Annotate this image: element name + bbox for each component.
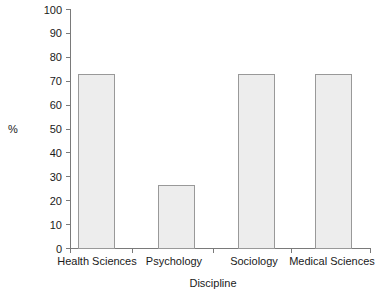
y-tick-label: 80 <box>50 51 62 63</box>
y-tick-label: 20 <box>50 195 62 207</box>
y-tick-label: 0 <box>56 243 62 255</box>
bar-medical-sciences <box>316 75 352 249</box>
y-tick-label: 50 <box>50 123 62 135</box>
y-tick-label: 10 <box>50 219 62 231</box>
y-tick-label: 60 <box>50 99 62 111</box>
y-tick-label: 40 <box>50 147 62 159</box>
y-axis-title: % <box>8 123 18 135</box>
bar-sociology <box>239 74 275 249</box>
chart-canvas: 0 10 20 30 40 50 <box>0 0 379 298</box>
x-tick-label-medical-sciences: Medical Sciences <box>289 255 375 267</box>
bar-psychology <box>159 185 195 248</box>
y-tick-label: 90 <box>50 27 62 39</box>
x-tick-label-health-sciences: Health Sciences <box>57 255 137 267</box>
y-tick-label: 70 <box>50 75 62 87</box>
bar-chart: 0 10 20 30 40 50 <box>0 0 379 298</box>
y-tick-label: 30 <box>50 171 62 183</box>
y-tick-label: 100 <box>44 4 62 16</box>
bar-health-sciences <box>79 74 115 249</box>
x-tick-label-sociology: Sociology <box>230 255 278 267</box>
x-axis-title: Discipline <box>189 277 236 289</box>
x-tick-label-psychology: Psychology <box>146 255 203 267</box>
